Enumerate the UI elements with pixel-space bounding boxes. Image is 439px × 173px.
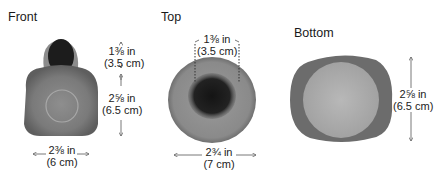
dimension-imperial: 2⅝ in: [102, 92, 142, 104]
view-title-front: Front: [8, 10, 37, 24]
dimension-imperial: 2¾ in: [200, 146, 238, 158]
bottom-pompom-figure: [290, 55, 392, 142]
dimension-metric: (7 cm): [200, 158, 238, 170]
dimension-imperial: 1⅜ in: [104, 45, 140, 57]
dimension-metric: (3.5 cm): [197, 45, 237, 57]
dimension-metric: (3.5 cm): [104, 57, 140, 69]
bottom-base-diameter-label: 2⅝ in (6.5 cm): [393, 88, 433, 112]
front-body-height-label: 2⅝ in (6.5 cm): [102, 92, 142, 116]
front-pompom-figure: [24, 39, 98, 136]
dimension-imperial: 2⅝ in: [393, 88, 433, 100]
front-head-height-label: 1⅜ in (3.5 cm): [104, 45, 140, 69]
top-body-diameter-label: 2¾ in (7 cm): [200, 146, 238, 170]
top-head-diameter-label: 1⅜ in (3.5 cm): [197, 33, 237, 57]
dimension-imperial: 2⅜ in: [44, 144, 80, 156]
dimension-metric: (6.5 cm): [393, 100, 433, 112]
dimension-imperial: 1⅜ in: [197, 33, 237, 45]
top-pompom-figure: [168, 57, 256, 143]
view-title-bottom: Bottom: [294, 26, 334, 40]
dimension-metric: (6.5 cm): [102, 104, 142, 116]
view-title-top: Top: [161, 10, 181, 24]
front-width-label: 2⅜ in (6 cm): [44, 144, 80, 168]
dimension-metric: (6 cm): [44, 156, 80, 168]
